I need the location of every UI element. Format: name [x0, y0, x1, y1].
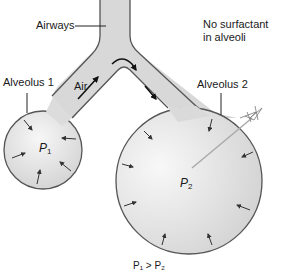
- alveolus-1-label: Alveolus 1: [3, 76, 54, 89]
- p1-subscript: 1: [47, 147, 51, 156]
- p2-subscript: 2: [188, 182, 192, 191]
- pressure-2-label: P2: [180, 176, 192, 191]
- airways-label: Airways: [36, 19, 75, 32]
- alveolus-2-label: Alveolus 2: [197, 78, 248, 91]
- air-label: Air: [74, 80, 87, 93]
- p1-letter: P: [39, 141, 47, 155]
- p2-letter: P: [180, 176, 188, 190]
- note-line-2: in alveoli: [203, 31, 246, 44]
- pressure-1-label: P1: [39, 141, 51, 156]
- note-line-1: No surfactant: [203, 18, 268, 31]
- bottom-partial-caption: P₁ > P₂: [133, 259, 165, 272]
